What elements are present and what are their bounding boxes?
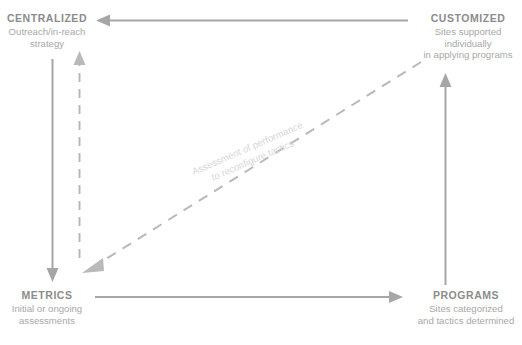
node-centralized-title: CENTRALIZED <box>0 12 94 25</box>
node-customized: CUSTOMIZED Sites supported individually … <box>414 12 522 61</box>
node-programs: PROGRAMS Sites categorized and tactics d… <box>410 289 522 326</box>
node-programs-description-line-2: and tactics determined <box>418 315 515 326</box>
node-metrics-title: METRICS <box>0 289 94 302</box>
node-customized-description-line-2: in applying programs <box>423 49 512 60</box>
node-centralized: CENTRALIZED Outreach/in-reach strategy <box>0 12 94 49</box>
connector-customized-to-metrics-assessment <box>82 62 421 273</box>
node-centralized-description: Outreach/in-reach strategy <box>0 26 94 49</box>
connector-programs-to-customized <box>440 73 452 285</box>
connector-metrics-to-centralized-feedback <box>74 51 86 258</box>
node-metrics-description-line-1: Initial or ongoing <box>12 303 82 314</box>
node-programs-description: Sites categorized and tactics determined <box>410 303 522 326</box>
node-metrics: METRICS Initial or ongoing assessments <box>0 289 94 326</box>
connector-customized-to-centralized <box>96 15 408 27</box>
node-centralized-description-line-1: Outreach/in-reach <box>9 26 86 37</box>
node-customized-description-line-1: Sites supported individually <box>435 26 502 49</box>
connector-centralized-to-metrics <box>47 59 59 282</box>
node-customized-description: Sites supported individually in applying… <box>414 26 522 61</box>
node-metrics-description-line-2: assessments <box>19 315 75 326</box>
node-customized-title: CUSTOMIZED <box>414 12 522 25</box>
node-programs-title: PROGRAMS <box>410 289 522 302</box>
node-programs-description-line-1: Sites categorized <box>429 303 503 314</box>
cycle-diagram: CENTRALIZED Outreach/in-reach strategy C… <box>0 0 522 345</box>
connector-metrics-to-programs <box>95 291 403 303</box>
node-centralized-description-line-2: strategy <box>30 38 64 49</box>
node-metrics-description: Initial or ongoing assessments <box>0 303 94 326</box>
